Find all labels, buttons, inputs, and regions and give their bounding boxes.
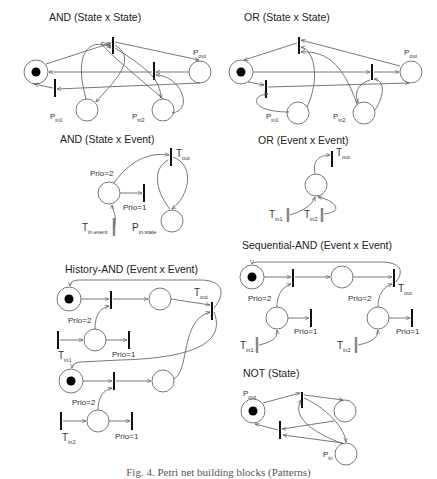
label-p-in1: Pin1: [50, 112, 63, 123]
panel-sequential-and: [240, 262, 412, 353]
label-p-in2: Pin2: [333, 112, 346, 123]
place-event-2: [367, 307, 389, 329]
label-prio-1: Prio=1: [112, 350, 135, 359]
label-p-in2: Pin2: [132, 112, 145, 123]
label-prio-2: Prio=2: [68, 316, 91, 325]
panel-title-history-and: History-AND (Event x Event): [65, 263, 198, 275]
place-mid: [334, 400, 356, 422]
panel-or-state-state: [229, 37, 422, 124]
panel-title-and-state-event: AND (State x Event): [60, 133, 155, 145]
label-p-in-state: Pin.state: [132, 222, 156, 235]
place-event-1: [84, 329, 106, 351]
label-t-in1: Tin1: [269, 209, 282, 222]
place-mid-2: [152, 370, 174, 392]
label-prio-1: Prio=1: [123, 203, 146, 212]
place-event: [98, 182, 120, 204]
panel-title-and-state-state: AND (State x State): [49, 11, 141, 23]
panel-and-state-state: [24, 37, 211, 121]
label-t-in2: Tin2: [337, 340, 350, 353]
label-prio-2: Prio=2: [348, 294, 371, 303]
label-t-out: Tout: [194, 287, 208, 300]
place-p-in2: [152, 99, 174, 121]
label-t-out: Tout: [176, 148, 190, 161]
label-p-in: Pin: [323, 450, 333, 461]
panel-history-and: [57, 280, 221, 432]
panel-title-or-event-event: OR (Event x Event): [258, 134, 348, 146]
label-p-out: Pout: [193, 48, 206, 59]
label-p-out: Pout: [243, 389, 256, 400]
label-prio-2: Prio=2: [72, 398, 95, 407]
place-mid-1: [149, 288, 171, 310]
place-p-in1: [76, 99, 98, 121]
place-event-1: [266, 307, 288, 329]
place-p-in1: [287, 102, 309, 124]
place-event-2: [87, 410, 109, 432]
place-p-out: [400, 61, 422, 83]
place-p-out: [189, 61, 211, 83]
panel-not-state: [241, 392, 357, 465]
place-p-in: [335, 443, 357, 465]
label-t-in2: Tin2: [304, 209, 317, 222]
label-prio-2: Prio=2: [248, 294, 271, 303]
label-p-in1: Pin1: [266, 112, 279, 123]
label-t-out: Tout: [336, 147, 350, 160]
label-t-in2: Tin2: [62, 432, 75, 445]
label-prio-1: Prio=1: [115, 432, 138, 441]
place-p-in-state: [161, 210, 183, 232]
panel-title-sequential-and: Sequential-AND (Event x Event): [242, 239, 392, 251]
label-t-in1: Tin1: [58, 350, 71, 363]
label-t-in-event: Tin.event: [82, 222, 107, 235]
label-t-out: Tout: [398, 283, 412, 296]
label-prio-1: Prio=1: [396, 327, 419, 336]
panel-title-or-state-state: OR (State x State): [244, 11, 330, 23]
place-mid: [331, 266, 353, 288]
label-prio-1: Prio=1: [294, 327, 317, 336]
label-p-out: Pout: [404, 48, 417, 59]
place-p-in2: [353, 102, 375, 124]
figure-caption: Fig. 4. Petri net building blocks (Patte…: [0, 466, 437, 478]
place-event: [305, 174, 327, 196]
label-prio-2: Prio=2: [90, 169, 113, 178]
label-t-in1: Tin1: [240, 340, 253, 353]
panel-title-not-state: NOT (State): [243, 367, 299, 379]
